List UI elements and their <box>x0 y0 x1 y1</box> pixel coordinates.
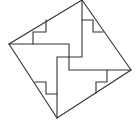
puzzle-diagram <box>0 0 140 127</box>
notch-lower-left <box>35 82 57 94</box>
outer-square <box>9 0 131 118</box>
notch-upper-left <box>33 20 46 44</box>
